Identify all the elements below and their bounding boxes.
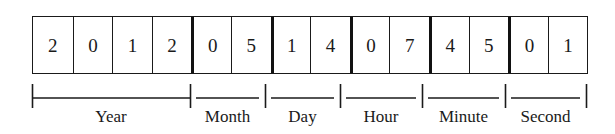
digit-cell-second-13: 1 [548,17,588,73]
digit-cell-minute-11: 5 [469,17,509,73]
digit-cell-day-7: 4 [310,17,350,73]
group-label-month: Month [190,108,265,125]
digit-cell-year-0: 2 [33,17,73,73]
digit-cell-year-1: 0 [73,17,113,73]
digit-cell-year-3: 2 [152,17,192,73]
group-label-minute: Minute [422,108,505,125]
digit-cell-month-5: 5 [231,17,271,73]
group-scale: YearMonthDayHourMinuteSecond [0,82,615,134]
group-label-day: Day [265,108,340,125]
digit-cell-hour-8: 0 [350,17,390,73]
digit-cell-day-6: 1 [271,17,311,73]
digit-cell-second-12: 0 [508,17,548,73]
digit-cell-hour-9: 7 [389,17,429,73]
digit-strip: 20120514074501 [32,16,588,74]
datetime-decomposition-diagram: 20120514074501 YearMonthDayHourMinuteSec… [0,0,615,134]
group-label-hour: Hour [340,108,422,125]
group-label-year: Year [32,108,190,125]
group-label-second: Second [505,108,586,125]
digit-cell-year-2: 1 [112,17,152,73]
digit-cell-month-4: 0 [191,17,231,73]
digit-cell-minute-10: 4 [429,17,469,73]
